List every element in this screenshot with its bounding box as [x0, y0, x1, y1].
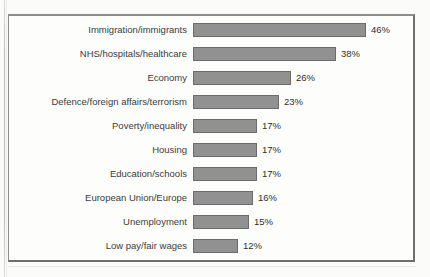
page-edge-artifact-secondary: [6, 0, 7, 277]
bar: [193, 239, 238, 253]
bar-value-label: 16%: [258, 191, 277, 205]
chart-frame: Immigration/immigrants46%NHS/hospitals/h…: [8, 14, 415, 262]
bar-category-label: Poverty/inequality: [9, 114, 187, 138]
bar-row: Low pay/fair wages12%: [9, 234, 413, 258]
bar-value-label: 17%: [262, 119, 281, 133]
bar: [193, 95, 279, 109]
bar-value-label: 46%: [371, 23, 390, 37]
bar-value-label: 23%: [284, 95, 303, 109]
bar-row: Education/schools17%: [9, 162, 413, 186]
bar: [193, 215, 249, 229]
bar: [193, 47, 336, 61]
bar: [193, 71, 291, 85]
bar: [193, 143, 257, 157]
bar: [193, 191, 253, 205]
bar-category-label: Unemployment: [9, 210, 187, 234]
bar-value-label: 17%: [262, 143, 281, 157]
bar-row: Poverty/inequality17%: [9, 114, 413, 138]
bar: [193, 167, 257, 181]
bar: [193, 119, 257, 133]
bar-category-label: Immigration/immigrants: [9, 18, 187, 42]
bar-category-label: Defence/foreign affairs/terrorism: [9, 90, 187, 114]
bar-row: Housing17%: [9, 138, 413, 162]
bar-row: Unemployment15%: [9, 210, 413, 234]
bar-category-label: Education/schools: [9, 162, 187, 186]
bar-row: European Union/Europe16%: [9, 186, 413, 210]
bar: [193, 23, 366, 37]
cropped-title-remnant: [0, 0, 430, 9]
bar-value-label: 17%: [262, 167, 281, 181]
page-edge-artifact: [4, 0, 5, 277]
bar-row: Defence/foreign affairs/terrorism23%: [9, 90, 413, 114]
page-bottom-edge-artifact: [8, 266, 416, 267]
bar-value-label: 26%: [296, 71, 315, 85]
bar-category-label: NHS/hospitals/healthcare: [9, 42, 187, 66]
bar-chart-plot: Immigration/immigrants46%NHS/hospitals/h…: [9, 16, 413, 260]
bar-row: NHS/hospitals/healthcare38%: [9, 42, 413, 66]
bar-row: Economy26%: [9, 66, 413, 90]
bar-row: Immigration/immigrants46%: [9, 18, 413, 42]
bar-category-label: Housing: [9, 138, 187, 162]
bar-category-label: European Union/Europe: [9, 186, 187, 210]
bar-value-label: 15%: [254, 215, 273, 229]
bar-value-label: 12%: [243, 239, 262, 253]
bar-category-label: Low pay/fair wages: [9, 234, 187, 258]
bar-category-label: Economy: [9, 66, 187, 90]
bar-value-label: 38%: [341, 47, 360, 61]
